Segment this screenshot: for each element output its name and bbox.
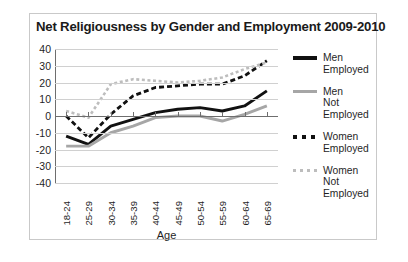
legend-swatch-icon [293, 169, 317, 172]
legend-swatch-icon [293, 90, 317, 93]
x-tick-mark [88, 112, 89, 116]
gridline [55, 166, 278, 167]
y-axis-tick: 40 [17, 43, 51, 55]
y-axis-tick: -10 [17, 127, 51, 139]
zero-line [55, 116, 278, 117]
x-axis-tick: 25-29 [83, 201, 94, 226]
gridline [55, 49, 278, 50]
x-tick-mark [178, 112, 179, 116]
y-axis-tick: 10 [17, 93, 51, 105]
x-tick-mark [267, 112, 268, 116]
x-tick-mark [222, 112, 223, 116]
x-axis-tick: 40-44 [150, 201, 161, 226]
x-tick-mark [245, 112, 246, 116]
x-tick-mark [155, 112, 156, 116]
series-line [66, 62, 267, 117]
x-axis-title: Age [55, 229, 278, 241]
plot-area [55, 49, 278, 183]
x-tick-mark [133, 112, 134, 116]
gridline [55, 99, 278, 100]
legend-item[interactable]: WomenNot Employed [293, 165, 379, 200]
legend-label: Employed [323, 64, 379, 76]
x-axis-tick: 35-39 [128, 201, 139, 226]
legend-item[interactable]: MenEmployed [293, 52, 379, 75]
x-axis-tick: 45-49 [173, 201, 184, 226]
y-axis-tick: -20 [17, 144, 51, 156]
x-tick-mark [111, 112, 112, 116]
legend-label: Men [323, 86, 379, 98]
legend-label: Not Employed [323, 97, 379, 120]
x-axis-tick: 50-54 [195, 201, 206, 226]
y-axis-tick: 30 [17, 60, 51, 72]
y-axis-tick: 0 [17, 110, 51, 122]
x-axis-tick: 55-59 [217, 201, 228, 226]
legend-item[interactable]: WomenEmployed [293, 131, 379, 154]
chart-legend: MenEmployedMenNot EmployedWomenEmployedW… [293, 52, 379, 210]
gridline [55, 133, 278, 134]
gridline [55, 183, 278, 184]
y-axis-tick: -40 [17, 177, 51, 189]
legend-label: Women [323, 131, 379, 143]
x-axis-tick: 60-64 [240, 201, 251, 226]
gridline [55, 150, 278, 151]
x-axis-tick: 65-69 [262, 201, 273, 226]
y-axis-tick: 20 [17, 77, 51, 89]
gridline [55, 83, 278, 84]
legend-label: Men [323, 52, 379, 64]
y-axis-tick: -30 [17, 160, 51, 172]
x-axis-tick: 30-34 [106, 201, 117, 226]
gridline [55, 66, 278, 67]
legend-label: Employed [323, 143, 379, 155]
legend-swatch-icon [293, 135, 317, 139]
x-axis-tick-labels: 18-2425-2930-3435-3940-4445-4950-5455-59… [55, 186, 278, 226]
x-tick-mark [66, 112, 67, 116]
x-tick-mark [200, 112, 201, 116]
legend-item[interactable]: MenNot Employed [293, 86, 379, 121]
y-axis-tick-labels: 403020100-10-20-30-40 [17, 49, 51, 183]
legend-swatch-icon [293, 56, 317, 59]
chart-title: Net Religiousness by Gender and Employme… [36, 19, 376, 37]
x-axis-tick: 18-24 [61, 201, 72, 226]
legend-label: Not Employed [323, 176, 379, 199]
legend-label: Women [323, 165, 379, 177]
